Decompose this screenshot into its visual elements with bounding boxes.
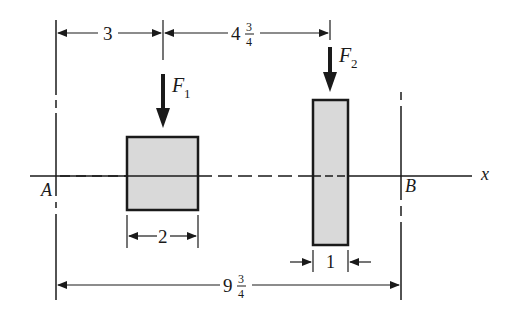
dim-label-4-whole: 4 [231,23,241,44]
point-label-a: A [40,180,53,200]
square-body [127,137,198,210]
dim-label-4-num: 3 [246,20,252,34]
beam-diagram: 3 4 3 4 2 1 9 3 4 F 1 F 2 A B x [0,0,516,311]
force-label-f1-sub: 1 [184,86,191,101]
dim-label-2: 2 [158,226,168,247]
force-label-f2-sub: 2 [351,56,358,71]
dim-label-9-whole: 9 [223,275,233,296]
force-arrow-f1-icon [156,74,170,128]
dim-label-9-num: 3 [238,272,244,286]
axis-label-x: x [480,164,489,184]
force-arrow-f2-icon [323,47,337,92]
force-label-f1: F [171,74,185,96]
dim-label-1: 1 [326,252,335,272]
force-label-f2: F [338,44,352,66]
dim-label-4-den: 4 [246,35,252,49]
dim-label-3: 3 [103,23,113,44]
dim-label-9-den: 4 [238,287,244,301]
point-label-b: B [405,176,416,196]
rectangle-body [313,100,348,245]
